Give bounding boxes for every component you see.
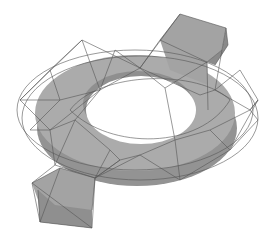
figure-canvas xyxy=(0,0,275,242)
solid-body xyxy=(32,14,237,228)
ring-wireframe-diagram xyxy=(0,0,275,242)
